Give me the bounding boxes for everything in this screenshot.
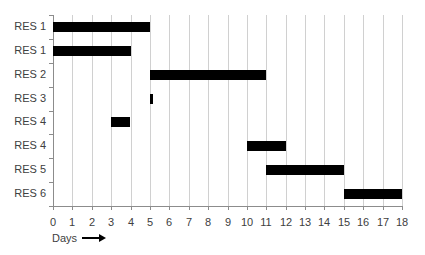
gridline <box>305 15 306 206</box>
x-tick-label: 4 <box>121 216 141 228</box>
category-label: RES 2 <box>0 68 46 80</box>
gridline <box>189 15 190 206</box>
x-tick <box>402 206 403 210</box>
gridline <box>208 15 209 206</box>
x-tick-label: 9 <box>218 216 238 228</box>
x-tick-label: 10 <box>237 216 257 228</box>
x-tick-label: 15 <box>334 216 354 228</box>
x-tick <box>111 206 112 210</box>
x-tick <box>53 206 54 210</box>
gridline <box>402 15 403 206</box>
y-tick <box>49 87 53 88</box>
y-axis <box>53 15 54 206</box>
x-tick-label: 12 <box>276 216 296 228</box>
x-tick-label: 2 <box>82 216 102 228</box>
x-tick-label: 18 <box>392 216 412 228</box>
x-tick-label: 0 <box>43 216 63 228</box>
x-tick-label: 1 <box>62 216 82 228</box>
gridline <box>150 15 151 206</box>
x-tick <box>344 206 345 210</box>
right-arrow-icon <box>81 233 107 243</box>
gantt-bar <box>53 46 131 56</box>
x-tick <box>228 206 229 210</box>
gantt-bar <box>266 165 344 175</box>
y-tick <box>49 15 53 16</box>
x-tick <box>363 206 364 210</box>
gridline <box>92 15 93 206</box>
y-tick <box>49 63 53 64</box>
category-label: RES 6 <box>0 187 46 199</box>
x-tick-label: 16 <box>353 216 373 228</box>
gantt-bar <box>344 189 402 199</box>
category-label: RES 5 <box>0 163 46 175</box>
gantt-chart: Days 0123456789101112131415161718RES 1RE… <box>0 0 425 255</box>
gantt-bar <box>111 117 130 127</box>
category-label: RES 1 <box>0 44 46 56</box>
gantt-bar <box>53 22 150 32</box>
x-tick <box>208 206 209 210</box>
x-tick-label: 13 <box>295 216 315 228</box>
gridline <box>228 15 229 206</box>
gridline <box>131 15 132 206</box>
x-tick <box>92 206 93 210</box>
category-label: RES 1 <box>0 20 46 32</box>
x-tick-label: 14 <box>314 216 334 228</box>
gridline <box>72 15 73 206</box>
gantt-bar <box>247 141 286 151</box>
x-tick <box>169 206 170 210</box>
x-tick-label: 5 <box>140 216 160 228</box>
y-tick <box>49 111 53 112</box>
x-tick <box>131 206 132 210</box>
x-axis-title: Days <box>52 232 107 244</box>
gantt-bar <box>150 70 266 80</box>
x-tick <box>189 206 190 210</box>
x-tick <box>150 206 151 210</box>
x-tick-label: 6 <box>159 216 179 228</box>
gridline <box>286 15 287 206</box>
category-label: RES 4 <box>0 139 46 151</box>
y-tick <box>49 158 53 159</box>
gridline <box>169 15 170 206</box>
x-tick-label: 7 <box>179 216 199 228</box>
gridline <box>383 15 384 206</box>
y-tick <box>49 39 53 40</box>
x-tick <box>247 206 248 210</box>
y-tick <box>49 182 53 183</box>
category-label: RES 3 <box>0 92 46 104</box>
gridline <box>247 15 248 206</box>
x-tick <box>286 206 287 210</box>
x-axis-label: Days <box>52 232 77 244</box>
gantt-bar <box>150 94 153 104</box>
x-tick-label: 3 <box>101 216 121 228</box>
gridline <box>266 15 267 206</box>
x-tick-label: 8 <box>198 216 218 228</box>
gridline <box>363 15 364 206</box>
x-tick <box>305 206 306 210</box>
x-tick <box>72 206 73 210</box>
y-tick <box>49 134 53 135</box>
x-tick <box>324 206 325 210</box>
gridline <box>324 15 325 206</box>
gridline <box>344 15 345 206</box>
category-label: RES 4 <box>0 115 46 127</box>
x-tick <box>266 206 267 210</box>
x-tick-label: 11 <box>256 216 276 228</box>
x-tick-label: 17 <box>373 216 393 228</box>
x-tick <box>383 206 384 210</box>
gridline <box>111 15 112 206</box>
